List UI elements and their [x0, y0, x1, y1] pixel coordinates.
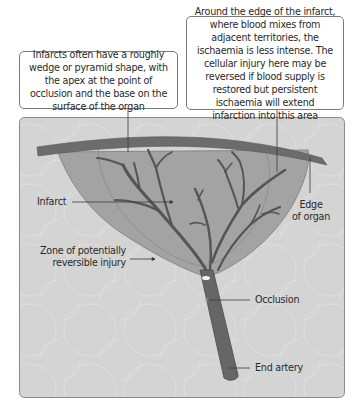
label-infarct: Infarct [37, 196, 66, 208]
label-zone-reversible: Zone of potentially reversible injury [36, 245, 126, 269]
label-edge-line1: Edge [291, 199, 331, 211]
callout-wedge-shape-text: Infarcts often have a roughly wedge or p… [26, 48, 171, 113]
occlusion-mark [202, 276, 210, 280]
label-end-artery: End artery [255, 362, 303, 374]
label-edge-of-organ: Edge of organ [291, 199, 331, 223]
callout-wedge-shape: Infarcts often have a roughly wedge or p… [19, 51, 178, 109]
label-occlusion: Occlusion [255, 294, 299, 306]
callout-edge-zone: Around the edge of the infarct, where bl… [186, 16, 344, 110]
label-zone-line1: Zone of potentially [36, 245, 126, 257]
label-zone-line2: reversible injury [36, 257, 126, 269]
callout-edge-zone-text: Around the edge of the infarct, where bl… [193, 5, 337, 122]
label-edge-line2: of organ [291, 211, 331, 223]
